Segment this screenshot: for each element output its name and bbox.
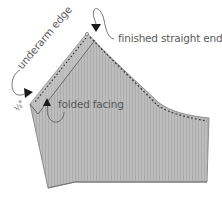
underarm-leader	[12, 70, 26, 95]
label-finished-straight-end: finished straight end	[118, 32, 222, 44]
label-folded-facing: folded facing	[58, 98, 124, 110]
label-half-inch: ½"	[12, 99, 26, 113]
finished-end-leader	[93, 8, 114, 39]
hem-edge	[48, 182, 207, 188]
sleeve-shape	[30, 33, 209, 188]
apex-marker	[85, 32, 88, 35]
underarm-arrow-icon	[24, 88, 33, 98]
sleeve-diagram: finished straight end underarm edge ½" f…	[0, 0, 222, 199]
finished-end-arrow-icon	[91, 24, 101, 32]
